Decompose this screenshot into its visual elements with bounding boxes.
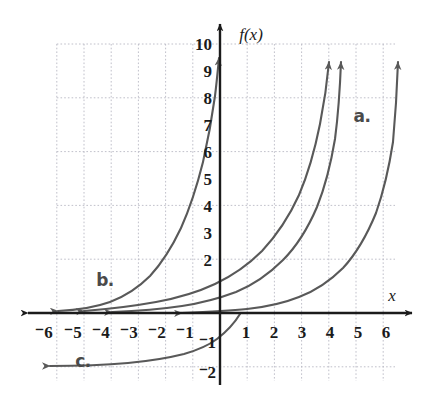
x-tick-neg-5: ⁻5 xyxy=(64,323,82,342)
curve-middle-2 xyxy=(112,62,341,312)
y-tick-8: 8 xyxy=(204,89,213,108)
x-axis-label: x xyxy=(387,286,396,305)
x-tick-neg-6: ⁻6 xyxy=(35,323,53,342)
x-tick-1: 1 xyxy=(242,323,251,342)
x-tick-6: 6 xyxy=(382,323,391,342)
exponential-functions-graph: x f(x) 10 9 8 7 6 5 4 3 2 ⁻1 ⁻2 ⁻6 ⁻5 ⁻4… xyxy=(0,0,438,403)
x-tick-neg-1: ⁻1 xyxy=(176,323,194,342)
y-tick-6: 6 xyxy=(204,143,213,162)
x-tick-neg-2: ⁻2 xyxy=(148,323,166,342)
horizontal-gridlines xyxy=(57,44,395,367)
y-tick-4: 4 xyxy=(204,197,213,216)
y-tick-neg-1: ⁻1 xyxy=(199,333,217,352)
curves-group xyxy=(50,58,398,366)
y-tick-labels: 10 9 8 7 6 5 4 3 2 ⁻1 ⁻2 xyxy=(195,35,216,382)
y-tick-7: 7 xyxy=(204,116,213,135)
y-tick-9: 9 xyxy=(204,62,213,81)
y-tick-10: 10 xyxy=(195,35,212,54)
curve-label-a: a. xyxy=(354,106,371,126)
y-tick-3: 3 xyxy=(204,224,213,243)
x-tick-2: 2 xyxy=(270,323,279,342)
y-tick-2: 2 xyxy=(204,251,213,270)
x-tick-neg-4: ⁻4 xyxy=(92,323,110,342)
y-axis-label: f(x) xyxy=(239,25,263,44)
curve-label-c: c. xyxy=(75,351,91,371)
x-tick-neg-3: ⁻3 xyxy=(120,323,138,342)
x-tick-3: 3 xyxy=(298,323,307,342)
x-tick-4: 4 xyxy=(326,323,335,342)
y-tick-neg-2: ⁻2 xyxy=(199,363,217,382)
plot-svg: x f(x) 10 9 8 7 6 5 4 3 2 ⁻1 ⁻2 ⁻6 ⁻5 ⁻4… xyxy=(0,0,438,403)
x-tick-5: 5 xyxy=(354,323,363,342)
y-tick-5: 5 xyxy=(204,170,213,189)
curve-label-b: b. xyxy=(96,270,114,290)
